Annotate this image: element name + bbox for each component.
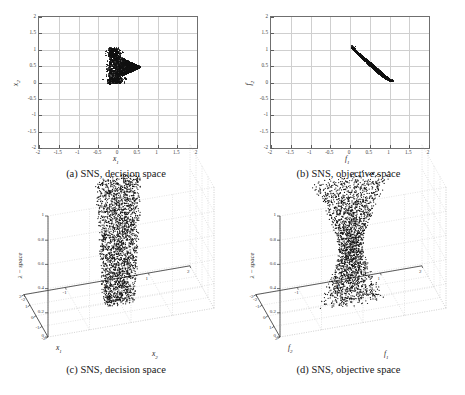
scatter-point-3d	[339, 305, 340, 306]
scatter-point-3d	[354, 203, 355, 204]
scatter-point-3d	[318, 195, 319, 196]
scatter-point-3d	[139, 214, 140, 215]
scatter-point-3d	[105, 199, 106, 200]
scatter-point-3d	[111, 203, 112, 204]
scatter-point-3d	[334, 220, 335, 221]
scatter-point-3d	[375, 189, 376, 190]
scatter-point-3d	[349, 185, 350, 186]
scatter-point-3d	[354, 186, 355, 187]
scatter-point-3d	[342, 178, 343, 179]
scatter-point-3d	[125, 194, 126, 195]
scatter-point-3d	[127, 252, 128, 253]
scatter-point-3d	[130, 292, 131, 293]
scatter-point-3d	[112, 246, 113, 247]
scatter-point-3d	[329, 179, 330, 180]
scatter-point-3d	[355, 207, 356, 208]
scatter-point-3d	[105, 268, 106, 269]
scatter-point	[115, 80, 116, 81]
scatter-point-3d	[110, 296, 111, 297]
scatter-point-3d	[127, 260, 128, 261]
scatter-point-3d	[103, 245, 104, 246]
scatter-point-3d	[108, 188, 109, 189]
scatter-point-3d	[119, 219, 120, 220]
scatter-point-3d	[342, 185, 343, 186]
scatter-point-3d	[350, 194, 351, 195]
scatter-point-3d	[355, 246, 356, 247]
scatter-point-3d	[341, 274, 342, 275]
scatter-point-3d	[124, 217, 125, 218]
scatter-point-3d	[352, 298, 353, 299]
scatter-point-3d	[100, 218, 101, 219]
scatter-point-3d	[359, 298, 360, 299]
scatter-point-3d	[377, 180, 378, 181]
scatter-point-3d	[338, 292, 339, 293]
scatter-point-3d	[339, 292, 340, 293]
scatter-point-3d	[325, 188, 326, 189]
scatter-point-3d	[102, 275, 103, 276]
scatter-point-3d	[346, 225, 347, 226]
scatter-point-3d	[347, 254, 348, 255]
scatter-point-3d	[115, 210, 116, 211]
scatter-point-3d	[356, 200, 357, 201]
scatter-point-3d	[336, 233, 337, 234]
scatter-point-3d	[135, 182, 136, 183]
scatter-point-3d	[113, 231, 114, 232]
scatter-point-3d	[107, 185, 108, 186]
scatter-point-3d	[121, 190, 122, 191]
scatter-point-3d	[356, 176, 357, 177]
scatter-point-3d	[370, 292, 371, 293]
scatter-point-3d	[126, 222, 127, 223]
y-tick-label: 2	[254, 13, 268, 19]
y-tick	[271, 66, 274, 67]
scatter-point-3d	[107, 304, 108, 305]
scatter-point-3d	[117, 305, 118, 306]
scatter-point-3d	[107, 214, 108, 215]
scatter-point-3d	[115, 222, 116, 223]
scatter-point-3d	[363, 271, 364, 272]
scatter-point-3d	[364, 205, 365, 206]
scatter-point-3d	[331, 195, 332, 196]
scatter-point-3d	[118, 205, 119, 206]
scatter-point-3d	[348, 204, 349, 205]
scatter-point-3d	[97, 218, 98, 219]
scatter-point-3d	[113, 247, 114, 248]
scatter-point-3d	[366, 174, 367, 175]
scatter-point-3d	[121, 249, 122, 250]
scatter-point-3d	[98, 199, 99, 200]
scatter-point-3d	[342, 281, 343, 282]
scatter-point-3d	[350, 234, 351, 235]
scatter-point-3d	[347, 262, 348, 263]
scatter-point-3d	[121, 301, 122, 302]
scatter-point-3d	[109, 237, 110, 238]
scatter-point-3d	[111, 182, 112, 183]
scatter-point-3d	[334, 208, 335, 209]
scatter-point-3d	[352, 295, 353, 296]
scatter-point-3d	[366, 275, 367, 276]
scatter-point-3d	[338, 195, 339, 196]
scatter-point-3d	[129, 259, 130, 260]
scatter-point-3d	[110, 277, 111, 278]
scatter-point-3d	[107, 249, 108, 250]
scatter-point-3d	[107, 246, 108, 247]
scatter-point-3d	[360, 192, 361, 193]
scatter-point-3d	[117, 222, 118, 223]
scatter-point-3d	[111, 249, 112, 250]
scatter-point-3d	[328, 283, 329, 284]
scatter-point-3d	[354, 298, 355, 299]
scatter-point-3d	[106, 295, 107, 296]
scatter-point-3d	[341, 246, 342, 247]
y-tick-label: 1.5	[254, 29, 268, 35]
scatter-point-3d	[119, 263, 120, 264]
scatter-point-3d	[113, 276, 114, 277]
scatter-point	[110, 80, 111, 81]
scatter-point-3d	[363, 213, 364, 214]
scatter-point-3d	[124, 191, 125, 192]
scatter-point-3d	[373, 200, 374, 201]
scatter-point-3d	[364, 208, 365, 209]
scatter-point-3d	[135, 213, 136, 214]
scatter-point-3d	[122, 189, 123, 190]
scatter-point-3d	[356, 259, 357, 260]
scatter-point-3d	[119, 276, 120, 277]
scatter-point-3d	[116, 265, 117, 266]
scatter-point-3d	[104, 237, 105, 238]
